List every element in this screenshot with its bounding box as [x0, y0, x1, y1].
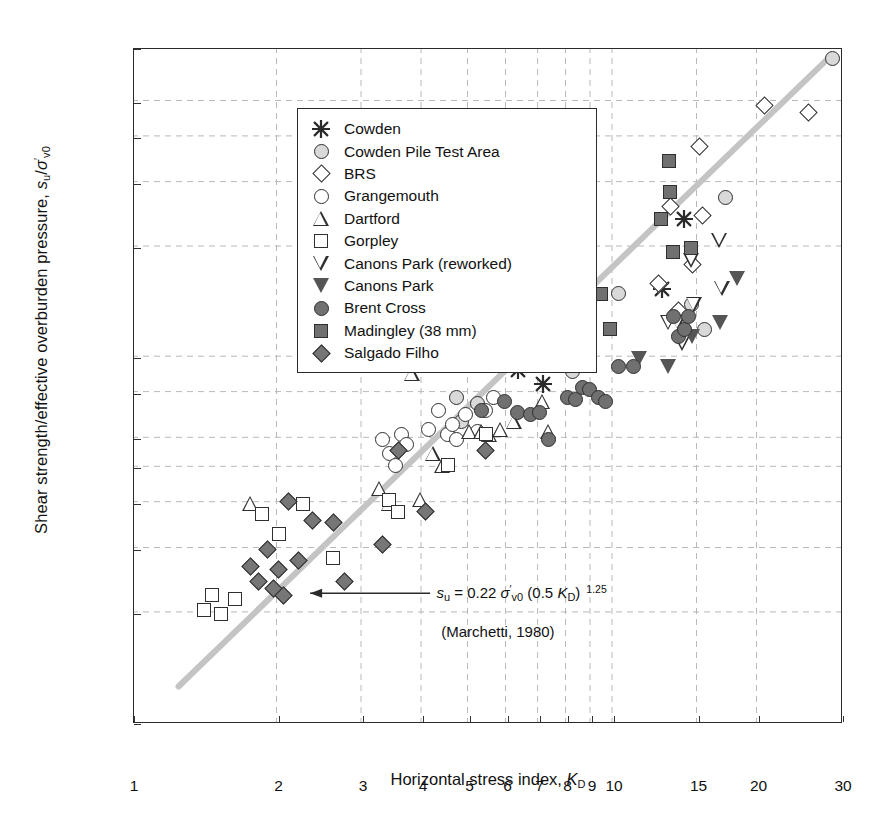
legend-item[interactable]: Dartford [310, 208, 586, 230]
legend-item-label: Cowden [344, 120, 401, 138]
y-tick-mark [134, 248, 141, 249]
x-tick-label: 4 [403, 777, 443, 795]
y-tick-mark [134, 439, 141, 440]
y-axis-symbol-sigma: σ [32, 160, 50, 170]
eq-s: s [436, 584, 444, 601]
legend-item[interactable]: Brent Cross [310, 297, 586, 319]
legend-item[interactable]: Canons Park (reworked) [310, 252, 586, 274]
reference-annotation: (Marchetti, 1980) [441, 623, 554, 640]
plot-area: 0.10.20.30.40.50.60.81.02.03.04.05.07.0 … [133, 48, 842, 723]
eq-paren-close: ) [575, 584, 580, 601]
x-tick-label: 30 [823, 777, 863, 795]
legend-item[interactable]: Gorpley [310, 230, 586, 252]
legend-item-label: Canons Park [344, 277, 434, 295]
y-axis-title-main: Shear strength/effective overburden pres… [32, 194, 50, 534]
x-tick-mark [540, 716, 541, 722]
y-axis-sigma-prime: ′ [32, 158, 44, 160]
eq-paren-open: (0.5 [523, 584, 557, 601]
x-tick-mark [508, 716, 509, 722]
eq-sigma: σ [501, 584, 510, 601]
y-axis-slash: / [32, 170, 50, 175]
y-tick-mark [134, 614, 141, 615]
x-tick-mark [614, 716, 615, 722]
y-tick-mark [134, 468, 141, 469]
y-tick-mark [134, 358, 141, 359]
x-tick-mark [592, 716, 593, 722]
legend-item-label: Gorpley [344, 232, 398, 250]
x-tick-label: 10 [594, 777, 634, 795]
legend-item-label: Grangemouth [344, 187, 439, 205]
x-tick-label: 1 [114, 777, 154, 795]
legend-marker-diamond-icon [310, 163, 344, 185]
x-tick-label: 3 [343, 777, 383, 795]
x-tick-mark [843, 716, 844, 722]
legend-marker-square-icon [310, 230, 344, 252]
legend-item-label: Madingley (38 mm) [344, 322, 477, 340]
legend-item-label: Brent Cross [344, 299, 426, 317]
legend-item[interactable]: Salgado Filho [310, 342, 586, 364]
y-tick-mark [134, 103, 141, 104]
legend-marker-triangle-down-icon [310, 275, 344, 297]
eq-sigma-sub: v0 [512, 591, 524, 603]
y-axis-symbol-s-sub: u [40, 175, 52, 181]
legend-item[interactable]: Madingley (38 mm) [310, 320, 586, 342]
y-tick-mark [134, 550, 141, 551]
x-tick-label: 5 [450, 777, 490, 795]
y-tick-mark [134, 394, 141, 395]
x-tick-mark [279, 716, 280, 722]
legend-marker-diamond-icon [310, 342, 344, 364]
x-tick-label: 2 [259, 777, 299, 795]
legend-marker-square-icon [310, 320, 344, 342]
x-tick-mark [363, 716, 364, 722]
y-axis-sigma-sub: v0 [40, 146, 52, 158]
y-tick-mark [134, 184, 141, 185]
legend-marker-circle-icon [310, 185, 344, 207]
x-tick-mark [134, 716, 135, 722]
legend-item-label: Dartford [344, 210, 400, 228]
x-tick-mark [423, 716, 424, 722]
x-tick-label: 15 [679, 777, 719, 795]
y-tick-mark [134, 49, 141, 50]
legend-item[interactable]: Cowden [310, 118, 586, 140]
legend-marker-triangle-down-icon [310, 253, 344, 275]
eq-exponent: 1.25 [586, 583, 606, 595]
legend-marker-circle-icon [310, 141, 344, 163]
x-tick-mark [759, 716, 760, 722]
legend-item-label: BRS [344, 165, 376, 183]
legend-item[interactable]: BRS [310, 163, 586, 185]
eq-kd: K [557, 584, 567, 601]
legend-marker-circle-icon [310, 297, 344, 319]
legend-item[interactable]: Grangemouth [310, 185, 586, 207]
y-tick-mark [134, 138, 141, 139]
x-tick-label: 20 [739, 777, 779, 795]
legend: CowdenCowden Pile Test AreaBRSGrangemout… [297, 108, 597, 373]
legend-item[interactable]: Cowden Pile Test Area [310, 140, 586, 162]
legend-item-label: Canons Park (reworked) [344, 255, 512, 273]
legend-marker-triangle-up-icon [310, 208, 344, 230]
legend-marker-asterisk-icon [310, 118, 344, 140]
x-tick-mark [568, 716, 569, 722]
figure-root: Shear strength/effective overburden pres… [0, 0, 884, 835]
legend-item[interactable]: Canons Park [310, 275, 586, 297]
eq-equals: = 0.22 [450, 584, 500, 601]
y-tick-mark [134, 504, 141, 505]
y-axis-title: Shear strength/effective overburden pres… [32, 30, 52, 650]
legend-item-label: Salgado Filho [344, 344, 439, 362]
y-tick-mark [134, 724, 141, 725]
x-tick-mark [470, 716, 471, 722]
y-axis-symbol-s: s [32, 181, 50, 189]
legend-item-label: Cowden Pile Test Area [344, 143, 500, 161]
equation-annotation: su = 0.22 σ′v0 (0.5 KD)1.25 [436, 583, 606, 603]
x-tick-mark [699, 716, 700, 722]
